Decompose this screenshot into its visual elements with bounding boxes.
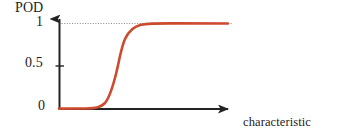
y-tick-label-0: 0	[38, 99, 45, 114]
pod-sigmoid-curve	[59, 23, 228, 108]
y-tick-label-1: 1	[36, 15, 43, 30]
x-axis-label: characteristic of the defect (e.g., dime…	[243, 84, 329, 137]
pod-curve-figure: POD 1 0.5 0 characteristic of the defect…	[0, 0, 349, 137]
x-axis-label-line-1: characteristic	[243, 115, 329, 130]
y-tick-label-0point5: 0.5	[25, 56, 43, 71]
